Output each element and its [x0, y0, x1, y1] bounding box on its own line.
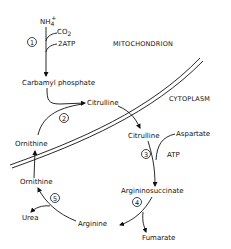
step5-arrow	[38, 188, 76, 221]
urea-label: Urea	[22, 214, 38, 222]
ornithine-transport-arrow	[34, 151, 35, 178]
atp-label: ATP	[167, 151, 180, 159]
fumarate-output-arrow	[143, 212, 146, 232]
urea-output-arrow	[31, 206, 50, 212]
atp-input-arrow	[46, 44, 57, 52]
svg-text:2: 2	[62, 115, 66, 123]
nh4-label: NH4+	[40, 14, 56, 27]
mitochondrion-label: MITOCHONDRION	[113, 40, 173, 48]
arginine-label: Arginine	[78, 220, 107, 228]
ornithine-cyto-label: Ornithine	[20, 178, 53, 186]
argininosuccinate-label: Argininosuccinate	[121, 187, 184, 195]
co2-label: CO2	[57, 28, 71, 37]
citrulline-cyto-label: Citrulline	[128, 132, 159, 140]
citrulline-mito-label: Citrulline	[87, 99, 118, 107]
step3-arrow	[148, 141, 155, 186]
fumarate-label: Fumarate	[142, 234, 175, 242]
ornithine-mito-label: Ornithine	[15, 140, 48, 148]
svg-text:5: 5	[53, 195, 57, 203]
co2-input-arrow	[46, 33, 57, 41]
urea-cycle-diagram: MITOCHONDRION CYTOPLASM NH4+ CO2 2ATP 1 …	[0, 0, 231, 249]
svg-text:3: 3	[144, 151, 148, 159]
2atp-label: 2ATP	[58, 40, 75, 48]
carbamyl-phosphate-label: Carbamyl phosphate	[22, 79, 95, 87]
carbamyl-to-citrulline-arrow	[47, 88, 85, 104]
ornithine-to-citrulline-arrow	[38, 104, 83, 135]
diagram-svg: MITOCHONDRION CYTOPLASM NH4+ CO2 2ATP 1 …	[0, 0, 231, 249]
cytoplasm-label: CYTOPLASM	[169, 95, 210, 103]
aspartate-label: Aspartate	[176, 130, 210, 138]
svg-text:4: 4	[135, 199, 139, 207]
svg-text:1: 1	[30, 39, 34, 47]
